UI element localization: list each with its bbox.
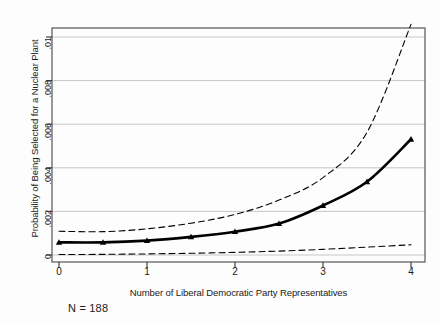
x-tick-label-1: 1 [137, 266, 157, 277]
x-tick-label-2: 2 [225, 266, 245, 277]
chart-figure: Probability of Being Selected for a Nucl… [0, 0, 439, 324]
x-axis-title: Number of Liberal Democratic Party Repre… [52, 287, 425, 298]
plot-frame [52, 28, 425, 262]
series-line-predicted [59, 139, 411, 242]
gridlines [52, 37, 425, 255]
series-line-confidence [59, 245, 411, 255]
x-tick-label-0: 0 [49, 266, 69, 277]
y-axis-ticks [46, 37, 52, 255]
sample-size-note: N = 188 [68, 302, 108, 314]
x-tick-label-3: 3 [313, 266, 333, 277]
x-tick-label-4: 4 [401, 266, 421, 277]
series-line-confidence [59, 24, 411, 231]
data-point-marker [408, 136, 414, 142]
data-series-layer [56, 24, 414, 254]
